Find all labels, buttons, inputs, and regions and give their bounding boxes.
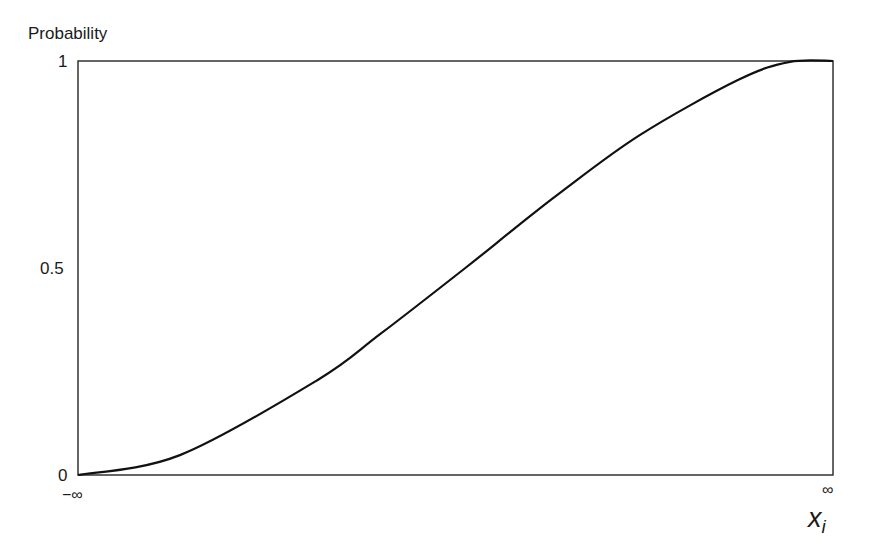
x-axis-subscript: i — [822, 516, 826, 537]
y-tick-1: 1 — [58, 53, 67, 70]
y-tick-0-5: 0.5 — [40, 260, 64, 277]
y-axis-label: Probability — [28, 25, 107, 42]
cdf-curve — [78, 60, 833, 475]
x-axis-var: x — [808, 503, 822, 533]
x-tick-neg-infinity: −∞ — [62, 487, 83, 503]
y-tick-0: 0 — [58, 467, 67, 484]
x-tick-pos-infinity: ∞ — [822, 482, 833, 498]
plot-frame — [78, 61, 833, 475]
x-axis-label: xi — [808, 505, 826, 536]
plot-area — [0, 0, 879, 550]
